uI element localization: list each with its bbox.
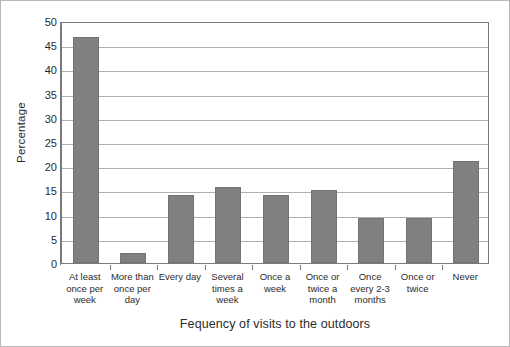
bar-chart-figure: Percentage 05101520253035404550 At least… [0,0,510,347]
x-tick-mark [205,265,206,270]
bar [406,218,432,263]
y-tick-label: 45 [31,40,57,52]
bar [311,190,337,263]
bar [263,195,289,263]
x-tick-mark [395,265,396,270]
bar [215,187,241,263]
y-axis-tick-labels: 05101520253035404550 [31,22,57,264]
x-tick-label: More thanonce perday [109,271,157,306]
y-tick-label: 50 [31,16,57,28]
x-tick-label: Once ortwice [394,271,442,294]
x-tick-label: Once ortwice amonth [299,271,347,306]
x-axis-tick-labels: At leastonce perweekMore thanonce perday… [61,271,489,315]
bar [358,218,384,263]
x-tick-label: Every day [156,271,204,283]
x-tick-mark [347,265,348,270]
y-tick-label: 15 [31,185,57,197]
y-tick-label: 35 [31,89,57,101]
y-tick-label: 10 [31,210,57,222]
y-tick-label: 5 [31,234,57,246]
y-axis-title: Percentage [10,1,32,264]
x-tick-label: At leastonce perweek [61,271,109,306]
y-tick-label: 20 [31,161,57,173]
x-tick-label: Severaltimes aweek [204,271,252,306]
x-axis-title: Fequency of visits to the outdoors [61,317,489,331]
y-tick-label: 40 [31,64,57,76]
x-tick-mark [442,265,443,270]
x-tick-mark [300,265,301,270]
bar [453,161,479,263]
plot-area [61,22,489,264]
bar-series [62,23,488,263]
x-tick-mark [157,265,158,270]
x-tick-mark [252,265,253,270]
y-tick-label: 0 [31,258,57,270]
bar [73,37,99,264]
x-tick-label: Onceevery 2-3months [346,271,394,306]
x-tick-label: Once aweek [251,271,299,294]
bar [120,253,146,263]
x-tick-mark [110,265,111,270]
y-tick-label: 30 [31,113,57,125]
bar [168,195,194,263]
x-tick-label: Never [441,271,489,283]
y-tick-label: 25 [31,137,57,149]
